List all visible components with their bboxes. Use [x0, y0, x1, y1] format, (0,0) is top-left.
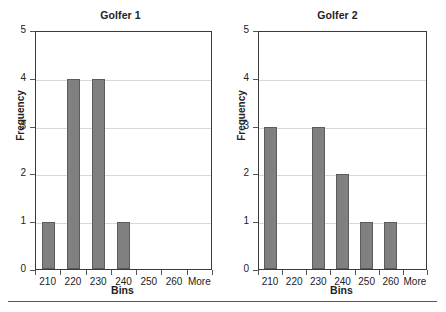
- chart-2-bar-230[interactable]: [312, 127, 325, 269]
- chart-2-x-tick-marks: [258, 270, 427, 275]
- chart-1-y-tick-label-3: 3: [2, 120, 26, 131]
- chart-2-x-axis-label: Bins: [223, 284, 446, 296]
- chart-2-x-tick-mark-2: [306, 270, 307, 275]
- chart-1-x-tick-mark-6: [187, 270, 188, 275]
- chart-2-y-tick-label-1: 1: [225, 215, 249, 226]
- chart-2-bar-240[interactable]: [336, 174, 349, 269]
- chart-2-x-tick-mark-0: [258, 270, 259, 275]
- chart-1-x-tick-mark-2: [86, 270, 87, 275]
- chart-2-bar-slot-230: [307, 32, 331, 269]
- chart-2-y-tick-label-5: 5: [225, 24, 249, 35]
- chart-2-title: Golfer 2: [223, 9, 446, 21]
- chart-1-bar-slot-More: [186, 32, 211, 269]
- chart-1-bar-220[interactable]: [67, 79, 81, 269]
- chart-1-bar-210[interactable]: [42, 222, 56, 269]
- chart-1-y-tick-label-5: 5: [2, 24, 26, 35]
- chart-1-bar-series: [36, 32, 211, 269]
- chart-2-x-tick-mark-4: [355, 270, 356, 275]
- chart-2-bar-series: [259, 32, 426, 269]
- chart-1-x-tick-mark-0: [35, 270, 36, 275]
- chart-1-title: Golfer 1: [0, 9, 223, 21]
- chart-1-bar-230[interactable]: [92, 79, 106, 269]
- chart-1-x-tick-mark-5: [161, 270, 162, 275]
- chart-2-bar-250[interactable]: [360, 222, 373, 269]
- chart-2-y-tick-label-4: 4: [225, 72, 249, 83]
- chart-1-x-tick-mark-4: [136, 270, 137, 275]
- chart-1-bar-slot-250: [136, 32, 161, 269]
- chart-2-bar-slot-250: [354, 32, 378, 269]
- chart-1-x-tick-marks: [35, 270, 212, 275]
- chart-1-bar-240[interactable]: [117, 222, 131, 269]
- chart-2-x-tick-mark-3: [330, 270, 331, 275]
- chart-1-bar-slot-240: [111, 32, 136, 269]
- chart-1-plot-area: [35, 31, 212, 270]
- chart-2-bar-slot-260: [378, 32, 402, 269]
- chart-1-y-tick-label-2: 2: [2, 167, 26, 178]
- chart-1-x-tick-mark-7: [212, 270, 213, 275]
- chart-2-bar-slot-More: [402, 32, 426, 269]
- footer-divider: [8, 301, 437, 302]
- chart-2-plot-area: [258, 31, 427, 270]
- chart-1-bar-slot-210: [36, 32, 61, 269]
- chart-1-y-tick-label-4: 4: [2, 72, 26, 83]
- chart-2-bar-slot-240: [331, 32, 355, 269]
- chart-2-bar-slot-210: [259, 32, 283, 269]
- chart-1-bar-slot-260: [161, 32, 186, 269]
- chart-2-y-tick-label-3: 3: [225, 120, 249, 131]
- chart-2-y-axis: 0 1 2 3 4 5: [224, 31, 258, 270]
- chart-panel-golfer-1: Golfer 1 Frequency 0 1 2 3 4: [0, 0, 223, 300]
- chart-1-x-tick-mark-3: [111, 270, 112, 275]
- chart-2-bar-210[interactable]: [264, 127, 277, 269]
- chart-panel-golfer-2: Golfer 2 Frequency 0 1 2 3 4: [223, 0, 446, 300]
- chart-2-y-tick-label-2: 2: [225, 167, 249, 178]
- chart-2-x-tick-mark-5: [379, 270, 380, 275]
- chart-1-x-axis-label: Bins: [0, 284, 223, 296]
- chart-1-y-tick-label-0: 0: [2, 263, 26, 274]
- chart-2-x-tick-mark-7: [427, 270, 428, 275]
- chart-1-y-axis: 0 1 2 3 4 5: [1, 31, 35, 270]
- chart-2-y-tick-label-0: 0: [225, 263, 249, 274]
- chart-1-y-tick-label-1: 1: [2, 215, 26, 226]
- chart-1-bar-slot-230: [86, 32, 111, 269]
- chart-2-bar-260[interactable]: [384, 222, 397, 269]
- chart-1-x-tick-mark-1: [60, 270, 61, 275]
- histogram-figure: Golfer 1 Frequency 0 1 2 3 4: [0, 0, 446, 312]
- chart-1-bar-slot-220: [61, 32, 86, 269]
- chart-2-bar-slot-220: [283, 32, 307, 269]
- chart-2-x-tick-mark-6: [403, 270, 404, 275]
- chart-2-x-tick-mark-1: [282, 270, 283, 275]
